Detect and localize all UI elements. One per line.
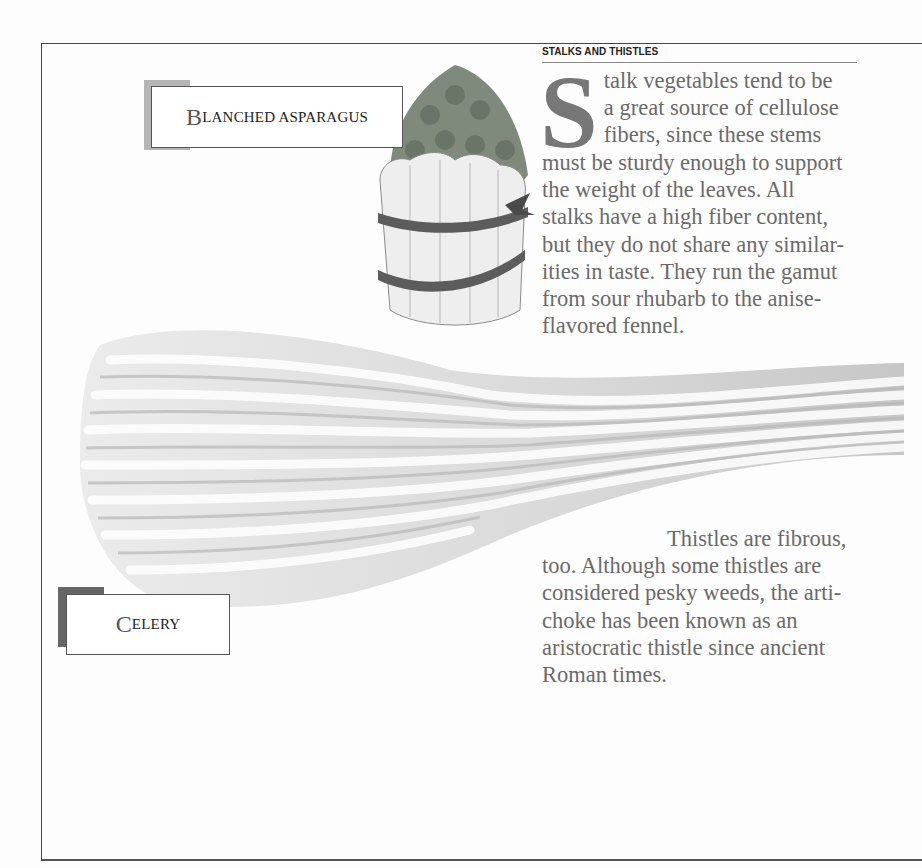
text-line: considered pesky weeds, the arti- xyxy=(542,579,892,606)
text-line: Roman times. xyxy=(542,661,892,688)
label-text: ELERY xyxy=(132,616,181,633)
intro-paragraph: S talk vegetables tend to be a great sou… xyxy=(542,67,872,339)
label-text: LANCHED ASPARAGUS xyxy=(202,109,368,126)
text-line: must be sturdy enough to support xyxy=(542,149,872,176)
asparagus-label: BLANCHED ASPARAGUS xyxy=(151,86,403,148)
text-line: flavored fennel. xyxy=(542,312,872,339)
label-initial: B xyxy=(186,104,202,131)
thistle-paragraph: Thistles are fibrous, too. Although some… xyxy=(542,525,892,688)
text-line: Thistles are fibrous, xyxy=(667,526,846,551)
text-line: too. Although some thistles are xyxy=(542,552,892,579)
text-line: aristocratic thistle since ancient xyxy=(542,634,892,661)
celery-label: CELERY xyxy=(66,594,230,655)
text-line: the weight of the leaves. All xyxy=(542,176,872,203)
drop-cap: S xyxy=(540,71,598,153)
text-line: stalks have a high fiber content, xyxy=(542,203,872,230)
text-line: but they do not share any similar- xyxy=(542,231,872,258)
text-line: choke has been known as an xyxy=(542,607,892,634)
text-line: from sour rhubarb to the anise- xyxy=(542,285,872,312)
text-line: ities in taste. They run the gamut xyxy=(542,258,872,285)
label-initial: C xyxy=(116,611,132,638)
